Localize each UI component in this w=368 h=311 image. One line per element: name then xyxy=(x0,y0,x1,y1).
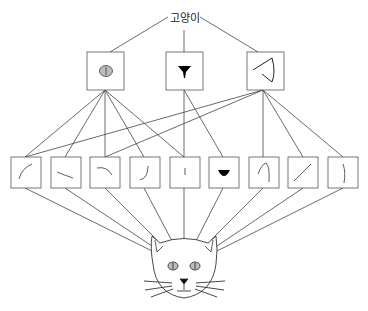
eye-icon xyxy=(100,66,113,77)
level2-box-ear xyxy=(247,52,284,90)
cat-face-icon xyxy=(144,236,225,298)
feature-hierarchy-diagram xyxy=(0,0,368,311)
level2-to-level1-connections xyxy=(25,90,343,157)
level2-box-nose xyxy=(166,52,203,90)
level1-boxes xyxy=(11,157,358,188)
root-label-cat: 고양이 xyxy=(170,9,200,25)
level2-box-eye xyxy=(87,52,124,90)
